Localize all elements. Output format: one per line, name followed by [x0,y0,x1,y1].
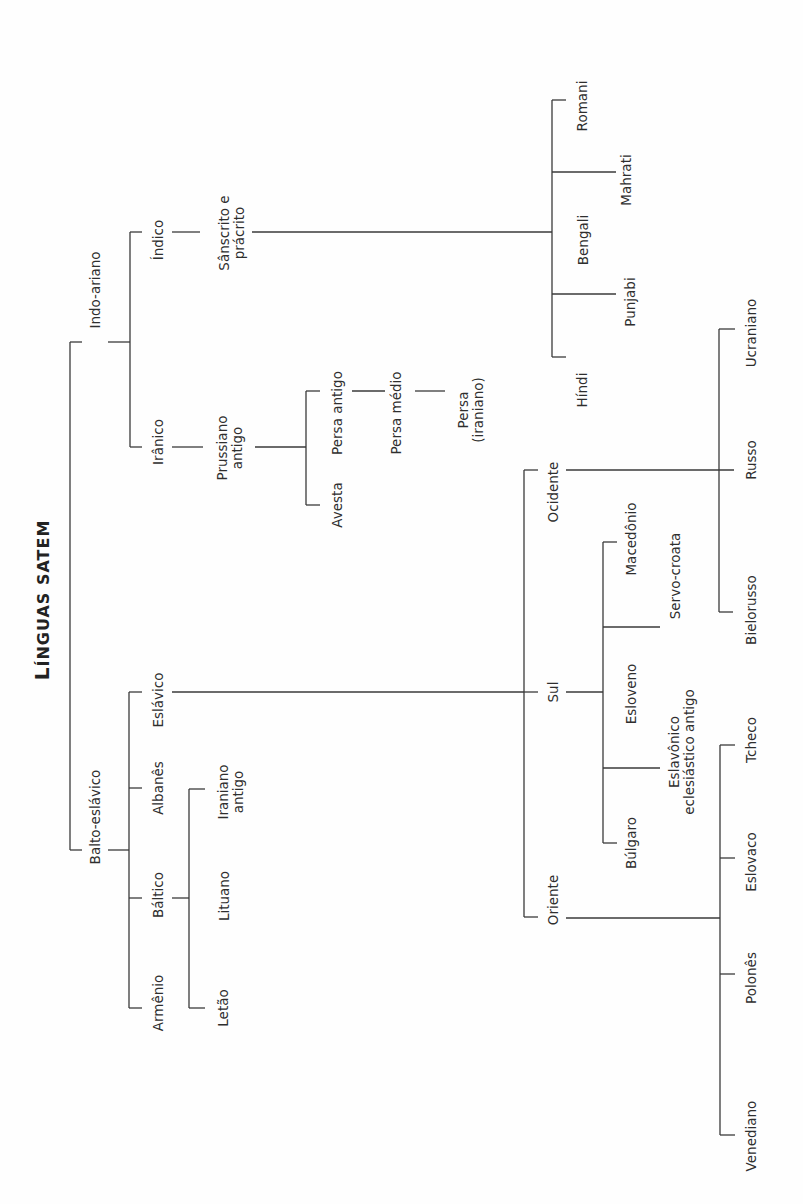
diagram-title-text: LÍNGUAS SATEM [35,520,51,681]
node-label: Báltico [151,872,166,918]
node-label: Venediano [744,1101,759,1172]
node-label: Eslavônico eclesiástico antigo [667,689,697,815]
node-label: Eslovaco [744,832,759,892]
node-label: Búlgaro [624,817,639,869]
node-label: Iraniano antigo [216,764,246,819]
node-label: Persa (iraniano) [456,377,486,443]
node-label: Índico [151,220,166,261]
node-label: Armênio [151,975,166,1032]
node-label: Romani [575,81,590,132]
node-label: Avesta [330,482,345,527]
node-label: Polonês [744,952,759,1004]
node-label: Híndi [575,373,590,408]
node-label: Indo-ariano [88,251,103,328]
node-label: Ocidente [546,462,561,523]
node-label: Persa médio [389,371,404,454]
node-label: Esloveno [624,664,639,725]
node-label: Prussiano antigo [215,416,245,481]
node-label: Macedônio [624,502,639,575]
node-label: Eslávico [151,672,166,727]
node-label: Sul [546,682,561,703]
node-label: Ucraniano [744,299,759,368]
node-label: Letão [216,989,231,1026]
node-label: Lituano [217,871,232,921]
node-label: Punjabi [623,277,638,326]
node-label: Servo-croata [668,533,683,620]
language-tree-diagram: LÍNGUAS SATEM Indo-arianoÍndicoSânscrito… [0,0,803,1204]
node-label: Russo [744,440,759,480]
node-label: Irânico [151,419,166,465]
node-label: Persa antigo [330,371,345,455]
node-label: Sânscrito e prácrito [217,195,247,270]
node-label: Bengali [576,215,591,265]
node-label: Bielorusso [744,575,759,645]
tree-connector-lines [0,0,803,1204]
node-label: Mahrati [619,154,634,205]
node-label: Balto-eslávico [88,770,103,865]
node-label: Albanês [151,761,166,815]
node-label: Tcheco [744,717,759,763]
node-label: Oriente [546,875,561,925]
